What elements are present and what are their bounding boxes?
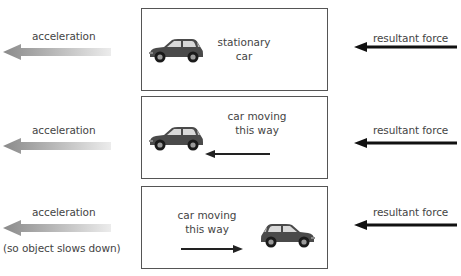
row-moving-right: acceleration (so object slows down) car … [0, 186, 461, 276]
black-left-arrow-icon [354, 42, 457, 52]
resultant-force-label: resultant force [373, 124, 448, 136]
acceleration-label: acceleration [32, 124, 95, 136]
acceleration-label: acceleration [32, 30, 95, 42]
acceleration-label: acceleration [32, 206, 95, 218]
resultant-force-label: resultant force [373, 206, 448, 218]
motion-right-arrow-icon [181, 245, 243, 253]
gradient-left-arrow-icon [3, 138, 111, 154]
row-moving-left: acceleration car moving this way resulta… [0, 96, 461, 186]
box-caption: stationary car [214, 35, 274, 63]
gradient-left-arrow-icon [3, 44, 111, 60]
box-caption: car moving this way [222, 109, 292, 137]
black-left-arrow-icon [354, 220, 457, 230]
black-left-arrow-icon [354, 138, 457, 148]
motion-left-arrow-icon [205, 150, 270, 158]
car-icon [148, 36, 204, 64]
car-icon [260, 221, 316, 249]
scene-box: stationary car [141, 8, 328, 91]
box-caption: car moving this way [172, 208, 242, 236]
scene-box: car moving this way [141, 96, 328, 179]
car-icon [148, 124, 204, 152]
row-stationary: acceleration stationary car resultant fo… [0, 0, 461, 96]
slows-down-note: (so object slows down) [3, 242, 120, 254]
scene-box: car moving this way [141, 186, 328, 269]
gradient-left-arrow-icon [3, 220, 111, 236]
